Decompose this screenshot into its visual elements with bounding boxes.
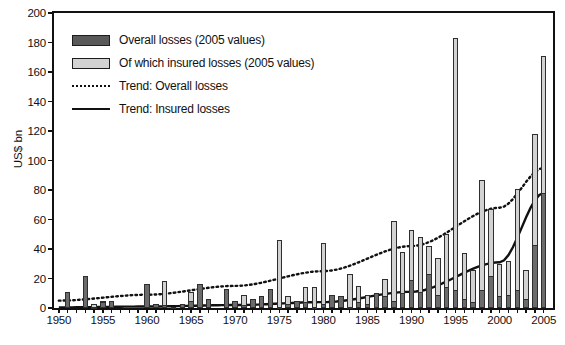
x-axis-tick-label: 1980 bbox=[311, 314, 336, 326]
x-axis-tick-label: 1955 bbox=[91, 314, 116, 326]
chart-legend: Overall losses (2005 values)Of which ins… bbox=[72, 30, 314, 122]
legend-swatch-light-gray-bar-icon bbox=[72, 58, 110, 69]
legend-label: Of which insured losses (2005 values) bbox=[119, 56, 314, 70]
x-axis-tick-label: 1975 bbox=[267, 314, 292, 326]
bar-overall-losses bbox=[277, 307, 282, 309]
bar-overall-losses bbox=[144, 284, 149, 308]
bar-overall-losses bbox=[329, 295, 334, 308]
chart-root: US$ bn 020406080100120140160180200 19501… bbox=[0, 0, 565, 345]
legend-swatch-dotted-line-icon bbox=[72, 85, 110, 87]
bar-overall-losses bbox=[391, 301, 396, 308]
bar-insured-losses bbox=[312, 287, 317, 308]
bar-overall-losses bbox=[462, 299, 467, 308]
bar-overall-losses bbox=[312, 307, 317, 309]
bar-insured-losses bbox=[321, 243, 326, 308]
bar-overall-losses bbox=[171, 307, 176, 309]
x-axis-tick-label: 1995 bbox=[443, 314, 468, 326]
bar-overall-losses bbox=[365, 304, 370, 308]
legend-label: Overall losses (2005 values) bbox=[119, 33, 265, 47]
legend-item-trend_insured[interactable]: Trend: Insured losses bbox=[72, 99, 314, 119]
x-axis-tick-label: 2000 bbox=[487, 314, 512, 326]
bar-overall-losses bbox=[453, 290, 458, 308]
bar-overall-losses bbox=[479, 290, 484, 308]
bar-insured-losses bbox=[277, 240, 282, 308]
bar-overall-losses bbox=[532, 245, 537, 308]
bar-insured-losses bbox=[162, 281, 167, 308]
legend-item-overall[interactable]: Overall losses (2005 values) bbox=[72, 30, 314, 50]
bar-overall-losses bbox=[382, 296, 387, 308]
x-axis-tick-label: 2005 bbox=[531, 314, 556, 326]
bar-insured-losses bbox=[347, 274, 352, 308]
legend-swatch-dark-gray-bar-icon bbox=[72, 35, 110, 46]
bar-overall-losses bbox=[206, 299, 211, 308]
bar-overall-losses bbox=[409, 280, 414, 308]
bar-overall-losses bbox=[241, 305, 246, 308]
y-axis-tick-label: 180 bbox=[0, 37, 46, 49]
x-axis-tick-label: 1965 bbox=[179, 314, 204, 326]
y-axis-tick-label: 0 bbox=[0, 302, 46, 314]
bar-overall-losses bbox=[232, 301, 237, 308]
bar-overall-losses bbox=[100, 302, 105, 308]
bar-overall-losses bbox=[400, 293, 405, 308]
bar-overall-losses bbox=[523, 299, 528, 308]
y-axis-tick-label: 200 bbox=[0, 7, 46, 19]
bar-overall-losses bbox=[321, 304, 326, 308]
bar-overall-losses bbox=[444, 287, 449, 308]
bar-overall-losses bbox=[488, 276, 493, 308]
y-axis-tick-label: 140 bbox=[0, 96, 46, 108]
y-axis-tick-label: 100 bbox=[0, 155, 46, 167]
bar-overall-losses bbox=[197, 284, 202, 308]
bar-overall-losses bbox=[83, 276, 88, 308]
bar-overall-losses bbox=[109, 301, 114, 308]
bar-overall-losses bbox=[285, 304, 290, 308]
bar-overall-losses bbox=[294, 301, 299, 308]
bar-overall-losses bbox=[153, 304, 158, 308]
bar-overall-losses bbox=[224, 289, 229, 308]
x-axis-tick-label: 1960 bbox=[135, 314, 160, 326]
bar-overall-losses bbox=[188, 301, 193, 308]
y-axis-tick-label: 120 bbox=[0, 125, 46, 137]
bar-overall-losses bbox=[356, 302, 361, 308]
y-axis-tick-label: 40 bbox=[0, 243, 46, 255]
y-axis-tick-label: 160 bbox=[0, 66, 46, 78]
bar-insured-losses bbox=[391, 221, 396, 308]
x-axis-tick-label: 1970 bbox=[223, 314, 248, 326]
x-axis-tick-label: 1990 bbox=[399, 314, 424, 326]
legend-swatch-solid-line-icon bbox=[72, 108, 110, 110]
x-axis-tick-label: 1950 bbox=[46, 314, 71, 326]
x-axis-tick-label: 1985 bbox=[355, 314, 380, 326]
bar-overall-losses bbox=[303, 302, 308, 308]
bar-overall-losses bbox=[374, 293, 379, 308]
legend-label: Trend: Insured losses bbox=[119, 102, 230, 116]
bar-overall-losses bbox=[91, 307, 96, 309]
bar-overall-losses bbox=[65, 292, 70, 308]
bar-overall-losses bbox=[426, 274, 431, 308]
bar-overall-losses bbox=[541, 193, 546, 308]
bar-overall-losses bbox=[347, 307, 352, 309]
bar-overall-losses bbox=[268, 289, 273, 308]
bar-overall-losses bbox=[418, 292, 423, 308]
bar-overall-losses bbox=[435, 295, 440, 308]
legend-item-insured[interactable]: Of which insured losses (2005 values) bbox=[72, 53, 314, 73]
bar-overall-losses bbox=[497, 296, 502, 308]
legend-item-trend_overall[interactable]: Trend: Overall losses bbox=[72, 76, 314, 96]
bar-overall-losses bbox=[515, 290, 520, 308]
y-axis-tick-label: 60 bbox=[0, 214, 46, 226]
legend-label: Trend: Overall losses bbox=[119, 79, 228, 93]
bar-overall-losses bbox=[506, 295, 511, 308]
bar-overall-losses bbox=[259, 296, 264, 308]
bar-overall-losses bbox=[470, 302, 475, 308]
bar-overall-losses bbox=[162, 305, 167, 308]
bar-overall-losses bbox=[250, 299, 255, 308]
bar-insured-losses bbox=[479, 180, 484, 308]
bar-overall-losses bbox=[338, 296, 343, 308]
bar-insured-losses bbox=[453, 38, 458, 308]
y-axis-tick-label: 20 bbox=[0, 273, 46, 285]
bar-overall-losses bbox=[180, 304, 185, 308]
y-axis-tick-label: 80 bbox=[0, 184, 46, 196]
